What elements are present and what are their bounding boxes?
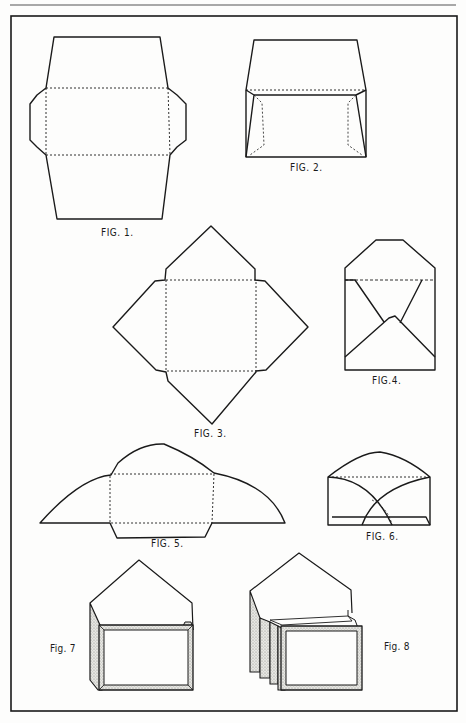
fig5-label: FIG. 5. [151,538,184,549]
figure-5 [40,444,285,538]
fig3-label: FIG. 3. [194,428,227,439]
diagram-page: FIG. 1. FIG. 2. FIG. 3. FIG.4. FIG. 5. F… [0,0,466,723]
figure-8 [250,553,362,690]
figure-7 [90,560,193,690]
fig2-label: FIG. 2. [290,162,323,173]
fig1-label: FIG. 1. [101,227,134,238]
fig4-label: FIG.4. [372,375,401,386]
figure-3 [113,226,308,424]
figure-1 [30,37,186,219]
fig6-label: FIG. 6. [366,531,399,542]
figure-2 [246,40,366,157]
figure-6 [328,452,430,525]
fig8-label: Fig. 8 [384,641,410,652]
envelope-diagram-canvas [0,0,466,723]
figure-4 [345,240,435,370]
page-frame [11,16,457,711]
fig7-label: Fig. 7 [50,643,76,654]
